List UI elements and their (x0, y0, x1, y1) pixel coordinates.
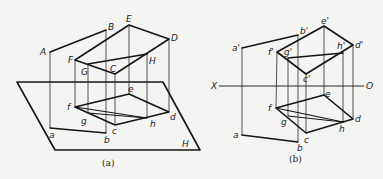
label-f-b: f (268, 103, 273, 113)
label-C: C (110, 64, 117, 74)
label-h-b: h (339, 124, 345, 134)
label-f-prime: f' (268, 47, 274, 57)
label-F: F (68, 55, 74, 65)
label-G: G (81, 67, 88, 77)
label-c-prime: c' (303, 74, 310, 84)
label-h: h (150, 119, 156, 129)
label-d-prime: d' (355, 40, 363, 50)
label-B: B (108, 22, 114, 32)
label-b-prime: b' (300, 26, 308, 36)
label-e: e (128, 84, 134, 94)
label-d-b: d (355, 114, 361, 124)
label-b: b (104, 135, 110, 145)
label-a-b: a (233, 130, 239, 140)
label-plane-H: H (182, 139, 189, 149)
label-a-prime: a' (232, 43, 240, 53)
label-E: E (126, 14, 132, 24)
label-f: f (67, 102, 72, 112)
label-A: A (39, 47, 46, 57)
label-b-b: b (297, 143, 303, 153)
label-e-prime: e' (321, 16, 329, 26)
label-X: X (210, 81, 218, 91)
top-view-b (242, 95, 353, 142)
label-O: O (366, 81, 373, 91)
label-h-prime: h' (337, 41, 345, 51)
label-e-b: e (325, 89, 331, 99)
label-c: c (112, 126, 117, 136)
label-c-b: c (304, 135, 309, 145)
figure-a: A B E D F G C H f g e d c h a b H (a) (17, 14, 200, 168)
projection-diagram: A B E D F G C H f g e d c h a b H (a) X … (0, 0, 383, 179)
label-g-prime: g' (284, 47, 292, 57)
label-a: a (49, 130, 55, 140)
caption-a: (a) (102, 158, 114, 168)
label-d: d (170, 112, 176, 122)
figure-b: X O a' b' e' d' f (210, 16, 373, 164)
label-H: H (149, 56, 156, 66)
caption-b: (b) (289, 154, 302, 164)
label-g: g (81, 116, 87, 126)
label-g-b: g (281, 117, 287, 127)
label-D: D (171, 33, 178, 43)
